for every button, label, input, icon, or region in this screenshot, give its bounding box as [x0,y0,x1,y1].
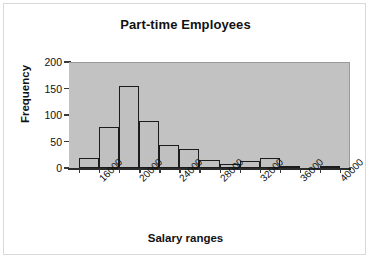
bars-layer [69,63,349,168]
x-axis-tick-mark [119,169,120,173]
plot-area [69,62,350,168]
histogram-bar [79,158,99,168]
y-axis-tick-group: 050100150200 [4,4,62,260]
x-axis-tick-mark [199,169,200,173]
y-axis-tick-label: 100 [28,109,62,121]
y-axis-tick-label: 200 [28,56,62,68]
chart-frame: Part-time Employees Frequency 0501001502… [3,3,366,255]
y-axis-tick-label: 0 [28,162,62,174]
y-axis-tick-label: 150 [28,83,62,95]
histogram-bar [119,86,139,168]
y-axis-tick-label: 50 [28,136,62,148]
x-axis-title: Salary ranges [4,232,367,244]
x-axis-tick-mark [79,169,80,173]
x-axis-tick-mark [159,169,160,173]
x-axis-tick-mark [320,169,321,173]
